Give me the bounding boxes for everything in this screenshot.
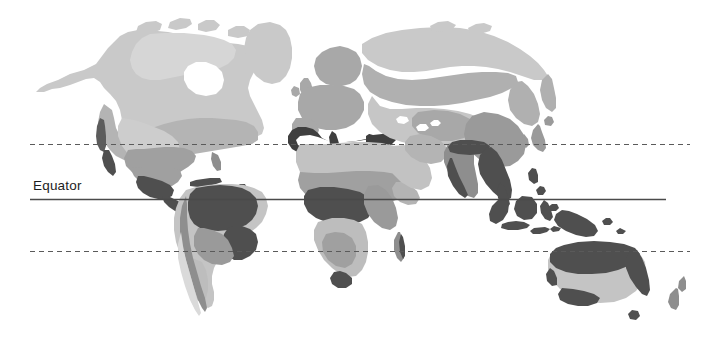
siberia-tundra-zone: [362, 27, 548, 80]
russian-far-east: [508, 81, 540, 126]
world-climate-map: Equator: [0, 0, 704, 337]
north-america-pacific-coast-dark: [96, 118, 106, 152]
world-map-graphic: [0, 0, 704, 337]
landmass-australia: [546, 241, 686, 320]
philippines: [528, 168, 546, 195]
siberia-taiga-zone: [362, 64, 518, 106]
landmass-south-america: [174, 184, 268, 316]
equator-label: Equator: [33, 178, 82, 193]
tasmania: [628, 310, 640, 320]
new-zealand: [668, 276, 686, 310]
moluccas: [548, 204, 559, 211]
europe-northern-zone: [314, 46, 362, 86]
sumatra: [489, 199, 509, 224]
lesser-sunda-islands: [530, 226, 561, 234]
florida: [211, 152, 221, 171]
kamchatka: [540, 74, 556, 112]
new-guinea: [554, 210, 598, 237]
java: [501, 221, 530, 230]
pacific-islands: [602, 218, 626, 234]
